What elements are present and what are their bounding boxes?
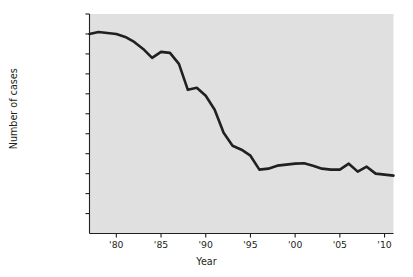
chart-figure: 1,100,0001,000,000900,000800,000700,0006…	[0, 0, 413, 277]
x-axis-tick-label: '05	[333, 240, 347, 249]
x-axis-title: Year	[0, 257, 413, 267]
x-axis-tick-label: '10	[377, 240, 391, 249]
x-axis-tick-marks	[116, 234, 384, 238]
plot-area-background	[90, 14, 394, 233]
x-axis-tick-labels: '80'85'90'95'00'05'10	[0, 240, 413, 254]
y-axis-title: Number of cases	[9, 54, 19, 164]
x-axis-tick-label: '95	[243, 240, 257, 249]
x-axis-tick-label: '85	[154, 240, 168, 249]
x-axis-tick-label: '80	[109, 240, 123, 249]
y-axis-tick-marks	[86, 14, 90, 214]
x-axis-tick-label: '90	[199, 240, 213, 249]
x-axis-tick-label: '00	[288, 240, 302, 249]
